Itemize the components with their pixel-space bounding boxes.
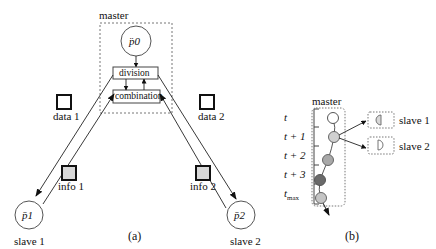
timeline-node-t1 xyxy=(329,132,340,143)
timeline-node-t2 xyxy=(323,155,334,166)
timeline-slave-1-label: slave 1 xyxy=(399,115,430,126)
timeline-node-tmax xyxy=(316,193,327,204)
tick-t: t xyxy=(284,112,287,123)
master-label: master xyxy=(99,10,128,21)
info-2-label: info 2 xyxy=(190,181,216,192)
slave-2-half-node-icon xyxy=(378,140,383,150)
info-1-icon xyxy=(62,166,76,180)
data-2-icon xyxy=(200,95,214,109)
slave-2-node-label: p̄2 xyxy=(234,210,245,221)
division-label: division xyxy=(119,69,150,79)
diagram-canvas xyxy=(0,0,436,249)
combination-label: combination xyxy=(115,92,163,102)
caption-a: (a) xyxy=(128,230,141,242)
slave-2-label: slave 2 xyxy=(230,236,261,247)
data-2-label: data 2 xyxy=(198,111,225,122)
slave-1-node-label: p̄1 xyxy=(22,210,33,221)
slave-1-label: slave 1 xyxy=(14,236,45,247)
timeline-slave-2-label: slave 2 xyxy=(399,141,430,152)
timeline-node-t xyxy=(328,113,339,124)
tick-t1: t + 1 xyxy=(284,131,305,142)
tick-t2: t + 2 xyxy=(284,150,305,161)
timeline-master-label: master xyxy=(312,96,341,107)
caption-b: (b) xyxy=(345,230,359,242)
data-1-label: data 1 xyxy=(53,111,80,122)
master-node-label: p̈0 xyxy=(129,36,140,47)
timeline-node-t3 xyxy=(315,175,326,186)
info-2-icon xyxy=(196,166,210,180)
info-1-label: info 1 xyxy=(58,181,84,192)
data-1-icon xyxy=(57,95,71,109)
tick-tmax: tmax xyxy=(284,188,299,202)
slave-1-half-node-icon xyxy=(376,115,381,125)
tick-t3: t + 3 xyxy=(284,169,305,180)
